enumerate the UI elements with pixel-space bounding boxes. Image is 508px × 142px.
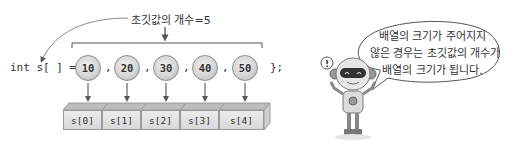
bubble-line: 배열의 크기가 주어지지 (370, 28, 495, 45)
array-cell: s[0] (63, 110, 102, 130)
bubble-line: 배열의 크기가 됩니다. (370, 62, 495, 79)
separator: , (105, 61, 112, 74)
array-cell: s[3] (180, 110, 219, 130)
separator: , (183, 61, 190, 74)
curved-arrow (42, 18, 128, 60)
array-cell: s[4] (219, 110, 264, 130)
value-circle: 20 (114, 55, 140, 81)
array-cell: s[1] (102, 110, 141, 130)
count-label: 초깃값의 개수=5 (131, 11, 211, 27)
code-suffix: }; (270, 61, 283, 74)
brace-line (72, 43, 262, 48)
robot-mascot-icon: ! (318, 52, 388, 142)
array-cell: s[2] (141, 110, 180, 130)
value-circle: 40 (192, 55, 218, 81)
separator: , (144, 61, 151, 74)
value-circle: 50 (232, 55, 258, 81)
value-circle: 30 (153, 55, 179, 81)
separator: , (222, 61, 229, 74)
array-box-top (63, 103, 270, 110)
speech-bubble-text: 배열의 크기가 주어지지 않은 경우는 초깃값의 개수가 배열의 크기가 됩니다… (370, 28, 495, 79)
bubble-line: 않은 경우는 초깃값의 개수가 (370, 45, 495, 62)
value-circle: 10 (75, 55, 101, 81)
svg-text:!: ! (325, 59, 329, 69)
